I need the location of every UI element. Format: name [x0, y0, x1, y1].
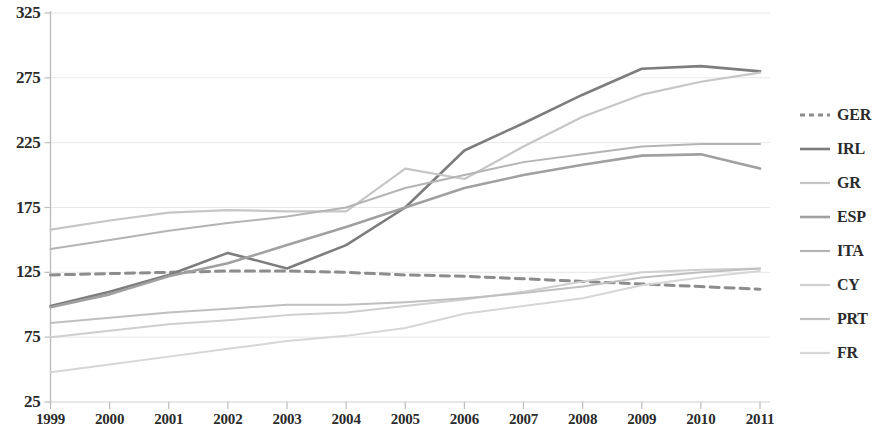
x-axis-label: 2000 — [83, 412, 137, 427]
legend-swatch-fr-icon — [800, 347, 830, 359]
x-axis-label: 2009 — [615, 412, 669, 427]
legend-label: ESP — [837, 209, 866, 225]
legend-item-fr[interactable]: FR — [800, 336, 874, 370]
y-axis-label: 75 — [0, 328, 41, 345]
legend-item-prt[interactable]: PRT — [800, 302, 874, 336]
x-axis-label: 2010 — [674, 412, 728, 427]
y-axis-label: 125 — [0, 263, 41, 280]
x-axis-label: 2007 — [497, 412, 551, 427]
x-axis-label: 2002 — [201, 412, 255, 427]
series-line-irl — [51, 66, 761, 306]
series-line-prt — [51, 268, 761, 322]
x-axis-label: 2004 — [319, 412, 373, 427]
series-line-fr — [51, 271, 761, 372]
x-axis-label: 2005 — [378, 412, 432, 427]
legend-item-esp[interactable]: ESP — [800, 200, 874, 234]
x-axis-label: 2006 — [437, 412, 491, 427]
y-axis-label: 25 — [0, 393, 41, 410]
legend-item-ger[interactable]: GER — [800, 98, 874, 132]
x-axis-label: 2003 — [260, 412, 314, 427]
legend-item-ita[interactable]: ITA — [800, 234, 874, 268]
legend-label: GR — [837, 175, 861, 191]
x-axis-label: 2011 — [733, 412, 787, 427]
legend-item-cy[interactable]: CY — [800, 268, 874, 302]
y-axis-label: 175 — [0, 199, 41, 216]
y-axis-label: 225 — [0, 134, 41, 151]
legend-swatch-prt-icon — [800, 313, 830, 325]
line-chart-svg — [0, 0, 874, 435]
x-axis-label: 2008 — [556, 412, 610, 427]
legend-label: ITA — [837, 243, 864, 259]
legend-swatch-cy-icon — [800, 279, 830, 291]
legend-label: CY — [837, 277, 860, 293]
legend-item-irl[interactable]: IRL — [800, 132, 874, 166]
x-axis-label: 2001 — [142, 412, 196, 427]
chart-legend: GERIRLGRESPITACYPRTFR — [800, 98, 874, 370]
legend-label: GER — [837, 107, 871, 123]
legend-label: PRT — [837, 311, 868, 327]
y-axis-label: 275 — [0, 69, 41, 86]
legend-swatch-ita-icon — [800, 245, 830, 257]
legend-swatch-gr-icon — [800, 177, 830, 189]
legend-label: FR — [837, 345, 858, 361]
legend-swatch-esp-icon — [800, 211, 830, 223]
x-axis-label: 1999 — [24, 412, 78, 427]
series-line-ita — [51, 144, 761, 249]
legend-item-gr[interactable]: GR — [800, 166, 874, 200]
legend-swatch-irl-icon — [800, 143, 830, 155]
legend-label: IRL — [837, 141, 865, 157]
y-axis-label: 325 — [0, 4, 41, 21]
plot-area — [0, 0, 874, 435]
legend-swatch-ger-icon — [800, 109, 830, 121]
chart-container: 3252752251751257525 19992000200120022003… — [0, 0, 874, 435]
